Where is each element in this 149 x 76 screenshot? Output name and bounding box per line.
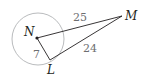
point-label-m: M: [124, 9, 138, 23]
length-label-nm: 25: [73, 11, 87, 24]
center-point-n: [35, 36, 38, 39]
tangent-diagram: N M L 25 24 7: [0, 0, 149, 76]
length-label-ml: 24: [83, 42, 97, 55]
point-label-l: L: [46, 63, 55, 76]
length-label-nl: 7: [33, 48, 40, 61]
point-label-n: N: [23, 25, 35, 39]
